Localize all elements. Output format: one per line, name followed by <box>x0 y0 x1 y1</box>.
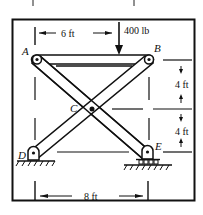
pin-b <box>145 55 154 64</box>
pin-c <box>90 107 95 112</box>
dimension-4ft-lower: 4 ft <box>175 114 189 147</box>
dimension-4ft-upper-label: 4 ft <box>175 79 189 90</box>
label-c: C <box>70 102 78 114</box>
dimension-8ft: 8 ft <box>35 181 148 202</box>
scissor-frame-diagram: 6 ft 400 lb A B C <box>0 0 203 215</box>
load-arrow-400lb: 400 lb <box>115 22 149 55</box>
label-e: E <box>154 140 162 152</box>
dimension-4ft-lower-label: 4 ft <box>175 126 189 137</box>
label-b: B <box>154 42 161 54</box>
dimension-6ft-label: 6 ft <box>61 28 75 39</box>
dimension-6ft: 6 ft <box>35 27 112 45</box>
dimension-4ft-upper: 4 ft <box>175 66 189 103</box>
load-label: 400 lb <box>124 25 149 36</box>
label-a: A <box>21 45 29 57</box>
dimension-8ft-label: 8 ft <box>84 191 98 202</box>
label-d: D <box>17 149 26 161</box>
pin-a <box>33 55 42 64</box>
member-ab <box>32 55 154 64</box>
